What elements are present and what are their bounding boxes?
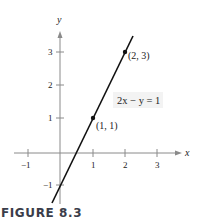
point-marker xyxy=(91,116,95,120)
point-label: (1, 1) xyxy=(96,120,118,132)
x-tick-label: 2 xyxy=(123,160,128,170)
point-marker xyxy=(123,50,127,54)
y-tick-label: −1 xyxy=(43,180,53,190)
point-label: (2, 3) xyxy=(128,50,150,62)
x-tick-label: −1 xyxy=(21,160,31,170)
equation-label: 2x − y = 1 xyxy=(117,95,160,106)
y-tick-label: 3 xyxy=(48,47,53,57)
figure-caption: FIGURE 8.3 xyxy=(1,206,82,220)
y-axis-arrow-icon xyxy=(58,31,63,38)
y-axis-label: y xyxy=(56,14,62,25)
x-axis-arrow-icon xyxy=(175,151,182,156)
graph-plot: x y −1 1 2 3 3 2 1 −1 2x − y = 1 (1, 1) … xyxy=(0,0,202,222)
x-tick-label: 1 xyxy=(91,160,96,170)
x-axis-label: x xyxy=(184,147,190,158)
y-tick-label: 1 xyxy=(48,113,53,123)
y-tick-label: 2 xyxy=(48,80,53,90)
x-tick-label: 3 xyxy=(155,160,160,170)
